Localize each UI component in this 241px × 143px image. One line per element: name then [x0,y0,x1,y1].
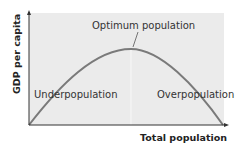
underpopulation-label: Underpopulation [34,89,117,100]
y-axis-label: GDP per capita [11,14,22,94]
x-axis-label: Total population [140,132,227,143]
optimum-label: Optimum population [92,20,195,31]
overpopulation-label: Overpopulation [157,89,234,100]
population-chart: Optimum population Underpopulation Overp… [0,0,241,143]
y-axis-arrow-icon [27,10,31,15]
x-axis-arrow-icon [224,123,229,127]
